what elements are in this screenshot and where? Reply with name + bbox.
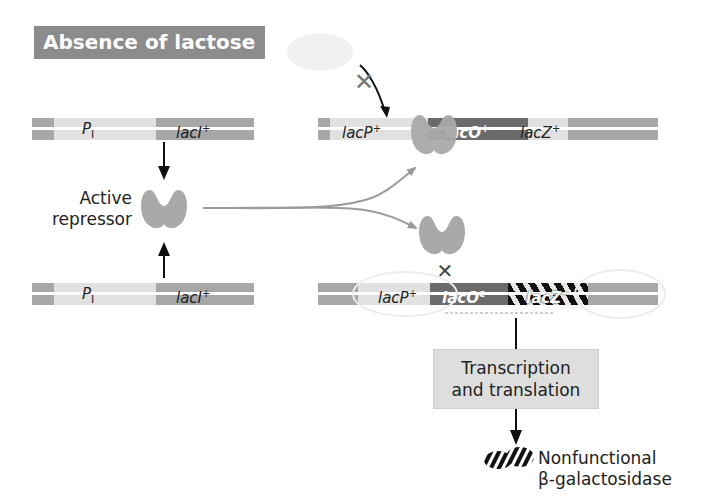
repressor-unbound-icon [419, 216, 465, 254]
blocked-x-mark-bottom: ✕ [437, 259, 454, 283]
arrow-repressor-to-bottom-operon [203, 208, 416, 229]
diagram-graphics: ✕ ✕ [0, 0, 705, 501]
arrow-repressor-to-top-operon [203, 168, 415, 208]
rna-polymerase-faded-bottom-right [575, 270, 665, 318]
blocked-x-mark-top: ✕ [354, 68, 374, 96]
transcription-translation-box: Transcription and translation [433, 349, 599, 409]
active-repressor-icon [141, 190, 187, 228]
nonfunctional-beta-galactosidase-icon [480, 444, 542, 474]
rna-polymerase-faded-top [287, 33, 353, 71]
repressor-bound-operator-icon [411, 115, 457, 154]
product-label: Nonfunctional β-galactosidase [538, 448, 672, 490]
